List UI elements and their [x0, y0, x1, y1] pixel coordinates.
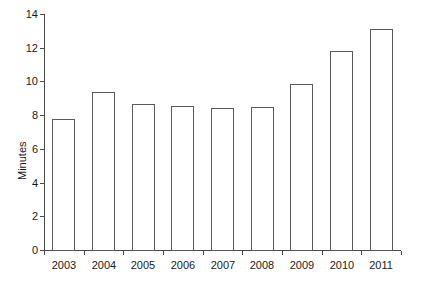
- x-axis-tick-mark: [44, 251, 45, 255]
- x-axis-tick: 2008: [242, 258, 282, 272]
- x-axis-tick-label: 2008: [242, 258, 282, 272]
- bar: [211, 108, 234, 251]
- x-axis-tick: 2006: [163, 258, 203, 272]
- bar: [52, 119, 75, 251]
- x-axis-tick: 2011: [361, 258, 401, 272]
- x-axis-tick-label: 2004: [84, 258, 124, 272]
- x-axis-tick: 2005: [123, 258, 163, 272]
- x-axis-tick-label: 2003: [44, 258, 84, 272]
- x-axis-tick-mark: [322, 251, 323, 255]
- x-axis-tick-mark: [401, 251, 402, 255]
- x-axis-tick-mark: [84, 251, 85, 255]
- y-axis-tick: 14: [20, 9, 38, 19]
- y-axis-tick-label: 14: [20, 9, 38, 19]
- x-axis-tick: 2009: [282, 258, 322, 272]
- y-axis-tick: 2: [20, 211, 38, 221]
- bar: [290, 84, 313, 251]
- y-axis-tick: 10: [20, 76, 38, 86]
- y-axis-tick-label: 12: [20, 43, 38, 53]
- y-axis-tick-label: 2: [20, 211, 38, 221]
- x-axis-tick-mark: [163, 251, 164, 255]
- bar: [132, 104, 155, 251]
- x-axis-tick-mark: [203, 251, 204, 255]
- y-axis-tick-label: 8: [20, 110, 38, 120]
- x-axis-tick-label: 2010: [322, 258, 362, 272]
- y-axis-tick: 6: [20, 144, 38, 154]
- x-axis-tick-mark: [123, 251, 124, 255]
- y-axis-tick-label: 4: [20, 178, 38, 188]
- y-axis-tick-label: 6: [20, 144, 38, 154]
- x-axis-tick-label: 2006: [163, 258, 203, 272]
- x-axis-tick-label: 2007: [203, 258, 243, 272]
- bar: [251, 107, 274, 251]
- x-axis-tick: 2004: [84, 258, 124, 272]
- y-axis-tick: 12: [20, 43, 38, 53]
- y-axis-tick-label: 10: [20, 76, 38, 86]
- x-axis-tick-mark: [242, 251, 243, 255]
- x-axis-tick: 2007: [203, 258, 243, 272]
- y-axis-tick: 4: [20, 178, 38, 188]
- bar: [171, 106, 194, 251]
- y-axis-tick: 8: [20, 110, 38, 120]
- x-axis-tick-label: 2005: [123, 258, 163, 272]
- x-axis-tick-label: 2009: [282, 258, 322, 272]
- y-axis-tick-label: 0: [20, 245, 38, 255]
- x-axis-tick-mark: [282, 251, 283, 255]
- x-axis-tick-label: 2011: [361, 258, 401, 272]
- y-axis-tick: 0: [20, 245, 38, 255]
- bar-chart: Minutes 02468101214 20032004200520062007…: [0, 0, 421, 285]
- x-axis-tick: 2010: [322, 258, 362, 272]
- x-axis-tick-mark: [361, 251, 362, 255]
- bar: [330, 51, 353, 251]
- y-axis-line: [44, 14, 45, 251]
- bar: [92, 92, 115, 251]
- bar: [370, 29, 393, 251]
- x-axis-tick: 2003: [44, 258, 84, 272]
